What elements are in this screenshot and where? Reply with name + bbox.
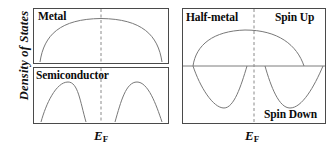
fermi-energy-label-right: EF [245,128,259,144]
panel-title-metal: Metal [38,10,66,22]
figure-density-of-states: Density of States Metal Semiconductor [0,0,333,152]
halfmetal-dos-plot [183,9,325,123]
y-axis-label: Density of States [17,0,32,116]
semiconductor-valence-curve [41,82,86,122]
label-spin-down: Spin Down [264,108,317,120]
semiconductor-conduction-curve [115,82,162,122]
panel-halfmetal [182,8,326,124]
fermi-energy-subscript-right: F [254,134,260,144]
spin-down-conduction-curve [265,66,323,108]
fermi-energy-symbol-left: E [94,128,103,143]
spin-down-valence-curve [193,66,247,108]
spin-up-curve [193,30,304,66]
label-spin-up: Spin Up [275,11,314,23]
panel-title-semiconductor: Semiconductor [36,69,109,81]
fermi-energy-label-left: EF [94,128,108,144]
fermi-energy-symbol-right: E [245,128,254,143]
panel-title-halfmetal: Half-metal [186,11,238,23]
fermi-energy-subscript-left: F [103,134,109,144]
